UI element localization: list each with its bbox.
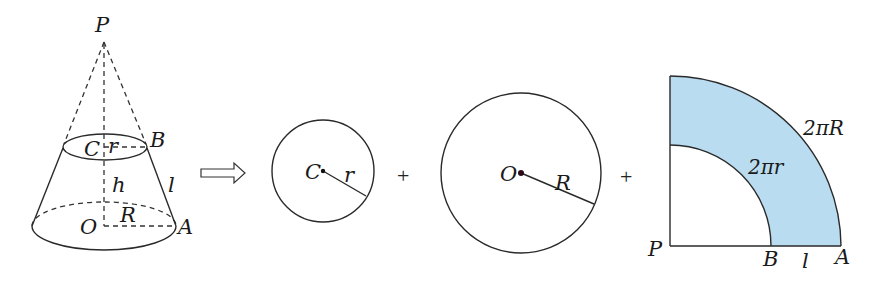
large-circle-label-r: R bbox=[554, 171, 571, 195]
lateral-surface-sector: P B l A 2πr 2πR bbox=[647, 76, 850, 273]
small-circle-label-c: C bbox=[305, 160, 321, 184]
label-point-b: B bbox=[149, 128, 165, 152]
bottom-ellipse-front bbox=[32, 226, 176, 250]
small-circle-label-r: r bbox=[344, 163, 356, 187]
sector-label-b: B bbox=[762, 247, 778, 271]
slant-left bbox=[32, 148, 63, 226]
plus-sign-2: + bbox=[620, 164, 632, 189]
label-bottom-center-o: O bbox=[80, 215, 97, 239]
large-circle: O R bbox=[441, 93, 601, 253]
frustum: P C r B h l O R A bbox=[32, 13, 193, 250]
sector-label-p: P bbox=[647, 237, 663, 261]
small-circle: C r bbox=[272, 120, 374, 222]
large-circle-label-o: O bbox=[500, 162, 517, 186]
label-height-h: h bbox=[112, 173, 126, 197]
plus-sign-1: + bbox=[397, 163, 409, 188]
label-top-center-c: C bbox=[84, 137, 100, 161]
label-slant-l: l bbox=[168, 173, 175, 197]
large-circle-center-dot bbox=[518, 170, 524, 176]
apex-dash-left bbox=[64, 42, 104, 144]
sector-label-a: A bbox=[833, 245, 850, 269]
outer-arc-label: 2πR bbox=[802, 116, 844, 140]
label-point-a: A bbox=[176, 215, 193, 239]
implies-arrow-icon bbox=[201, 163, 245, 183]
label-top-radius-r: r bbox=[108, 134, 120, 158]
small-circle-center-dot bbox=[321, 169, 325, 173]
apex-dash-right bbox=[104, 42, 146, 144]
frustum-surface-area-diagram: P C r B h l O R A C r + O R + P B l A bbox=[0, 0, 882, 297]
label-apex-p: P bbox=[94, 13, 110, 37]
sector-label-l: l bbox=[802, 249, 809, 273]
inner-arc-label: 2πr bbox=[747, 155, 785, 179]
bottom-ellipse-back bbox=[32, 202, 176, 226]
label-bottom-radius-r: R bbox=[119, 203, 136, 227]
